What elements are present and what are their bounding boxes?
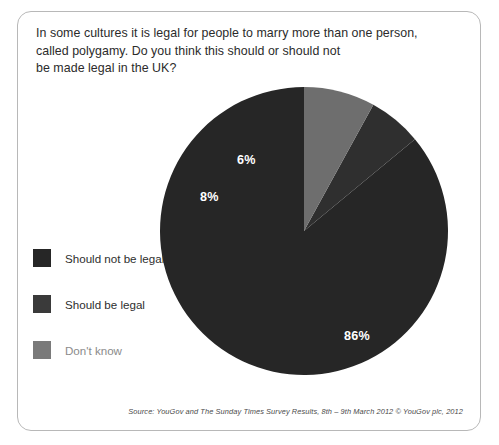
legend-label-dont-know: Don't know [65,344,122,357]
legend-swatch-icon-dont-know [33,341,51,359]
legend-item-dont-know: Don't know [33,341,164,359]
question-line-2: called polygamy. Do you think this shoul… [36,43,456,61]
legend-swatch-icon-should-be-legal [33,295,51,313]
pie-slice-group [160,87,448,375]
chart-legend: Should not be legal Should be legal Don'… [33,249,164,359]
legend-swatch-icon-should-not-be-legal [33,249,51,267]
page-title: In some cultures it is legal for people … [36,25,456,78]
legend-item-should-be-legal: Should be legal [33,295,164,313]
legend-item-should-not-be-legal: Should not be legal [33,249,164,267]
legend-label-should-not-be-legal: Should not be legal [65,252,164,265]
question-line-3: be made legal in the UK? [36,60,456,78]
question-line-1: In some cultures it is legal for people … [36,25,456,43]
chart-panel: In some cultures it is legal for people … [17,11,481,431]
legend-label-should-be-legal: Should be legal [65,298,145,311]
pie-slice-label-dont-know: 8% [200,190,219,204]
pie-chart: 86% 6% 8% [159,87,449,375]
pie-chart-svg [159,87,449,375]
pie-slice-label-should-not-be-legal: 86% [344,329,370,343]
pie-slice-label-should-be-legal: 6% [237,153,256,167]
source-note: Source: YouGov and The Sunday Times Surv… [128,407,463,416]
